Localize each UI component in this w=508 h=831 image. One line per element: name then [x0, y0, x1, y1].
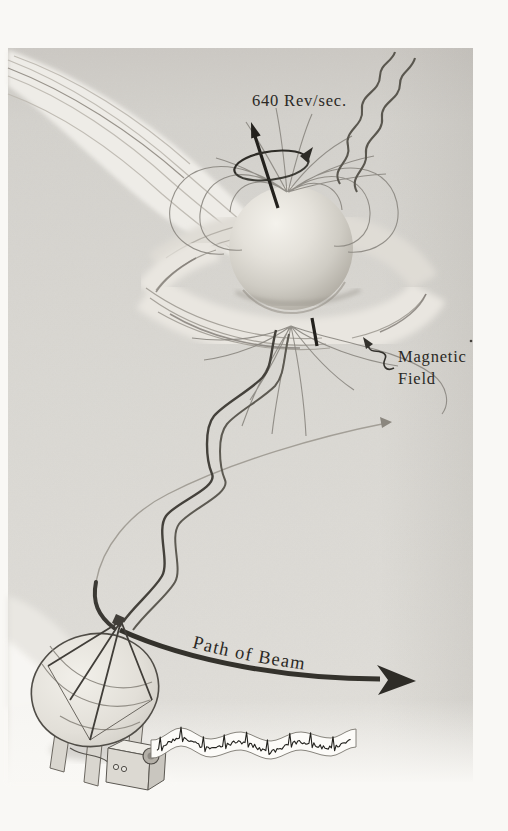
- stray-dot: [470, 340, 473, 343]
- pulsar-diagram: 640 Rev/sec. Magnetic Field Path of Beam: [0, 0, 508, 831]
- magnetic-field-label-line1: Magnetic: [398, 347, 467, 366]
- recorder-knob-icon: [113, 764, 118, 769]
- magnetic-field-label-line2: Field: [398, 369, 436, 388]
- neutron-star-sphere: [229, 186, 353, 310]
- rotation-rate-label: 640 Rev/sec.: [252, 91, 347, 110]
- illustration-page: 640 Rev/sec. Magnetic Field Path of Beam: [0, 0, 508, 831]
- recorder-knob-icon: [121, 766, 126, 771]
